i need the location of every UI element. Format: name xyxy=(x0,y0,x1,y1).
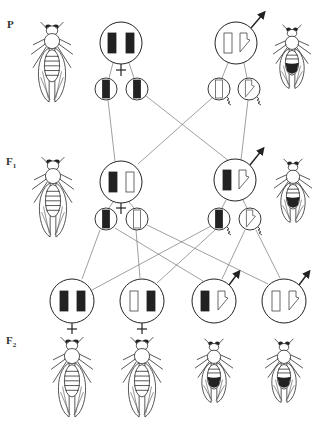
f1-female-fly xyxy=(32,157,74,237)
f2-offspring-3 xyxy=(192,273,238,402)
f2-offspring-1 xyxy=(50,279,94,417)
p-female-fly xyxy=(31,22,73,102)
p-female-gametes xyxy=(95,78,148,100)
f2-offspring-2 xyxy=(120,279,164,417)
venus-symbol xyxy=(116,203,126,214)
p-male-gametes xyxy=(208,78,261,105)
mars-symbol xyxy=(251,14,263,28)
f1-male-fly xyxy=(274,159,312,223)
p-female-genotype xyxy=(100,22,142,76)
f2-offspring-4 xyxy=(262,273,308,402)
mars-symbol xyxy=(250,150,262,165)
f1-female-genotype xyxy=(100,161,142,214)
inheritance-diagram xyxy=(0,0,329,429)
f1-male-genotype xyxy=(214,150,262,201)
p-male-genotype xyxy=(215,14,263,64)
p-male-fly xyxy=(273,25,311,89)
f1-male-gametes xyxy=(208,208,262,235)
venus-symbol xyxy=(116,64,126,76)
